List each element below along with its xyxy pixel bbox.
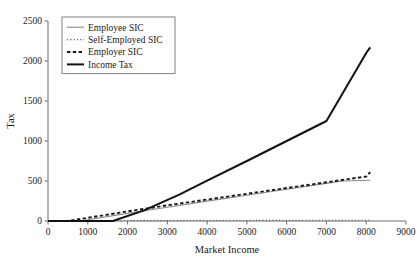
y-tick-label: 0	[37, 216, 42, 226]
legend-label: Self-Employed SIC	[88, 35, 163, 45]
legend-label: Employer SIC	[88, 47, 143, 57]
x-tick-label: 1000	[78, 227, 97, 237]
x-tick-label: 2000	[118, 227, 137, 237]
x-tick-label: 0	[46, 227, 51, 237]
y-tick-label: 2500	[23, 16, 42, 26]
x-axis-title: Market Income	[195, 244, 260, 255]
y-tick-label: 500	[28, 176, 43, 186]
x-tick-label: 9000	[397, 227, 416, 237]
x-tick-label: 6000	[277, 227, 296, 237]
x-tick-label: 3000	[158, 227, 177, 237]
y-axis-ticks: 05001000150020002500	[23, 16, 48, 226]
legend-label: Income Tax	[88, 60, 133, 70]
y-tick-label: 1000	[23, 136, 42, 146]
x-tick-label: 8000	[357, 227, 376, 237]
y-axis-title: Tax	[5, 112, 16, 128]
legend: Employee SICSelf-Employed SICEmployer SI…	[62, 17, 175, 74]
y-tick-label: 1500	[23, 96, 42, 106]
series-line-employee-sic	[48, 180, 370, 221]
x-axis-ticks: 0100020003000400050006000700080009000	[46, 221, 416, 237]
x-tick-label: 7000	[317, 227, 336, 237]
y-tick-label: 2000	[23, 56, 42, 66]
line-chart: 05001000150020002500 0100020003000400050…	[0, 0, 420, 267]
chart-container: 05001000150020002500 0100020003000400050…	[0, 0, 420, 267]
legend-label: Employee SIC	[88, 23, 144, 33]
x-tick-label: 5000	[237, 227, 256, 237]
x-tick-label: 4000	[198, 227, 217, 237]
